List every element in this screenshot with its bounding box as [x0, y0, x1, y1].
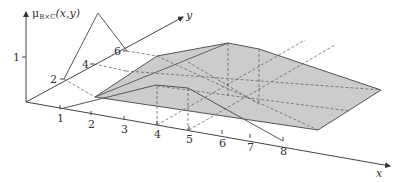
y-tick-4: 4 — [82, 58, 89, 71]
y-axis-label: y — [185, 9, 193, 22]
x-tick-4: 4 — [154, 128, 161, 141]
x-tick-1: 1 — [57, 112, 64, 125]
x-tick-3: 3 — [121, 123, 128, 136]
y-tick-2: 2 — [50, 73, 57, 86]
x-tick-6: 6 — [219, 137, 226, 150]
x-tick-5: 5 — [186, 133, 193, 146]
fuzzy-relation-diagram: μB×C(x,y) 1 1 2 3 4 5 6 7 8 2 4 6 x y — [0, 0, 402, 182]
mu-tick-1: 1 — [13, 51, 20, 64]
x-tick-2: 2 — [88, 118, 95, 131]
x-tick-7: 7 — [247, 141, 254, 154]
x-axis-label: x — [376, 167, 383, 180]
x-tick-8: 8 — [280, 145, 287, 158]
mu-axis-label: μB×C(x,y) — [32, 7, 80, 21]
y-tick-6: 6 — [114, 45, 121, 58]
